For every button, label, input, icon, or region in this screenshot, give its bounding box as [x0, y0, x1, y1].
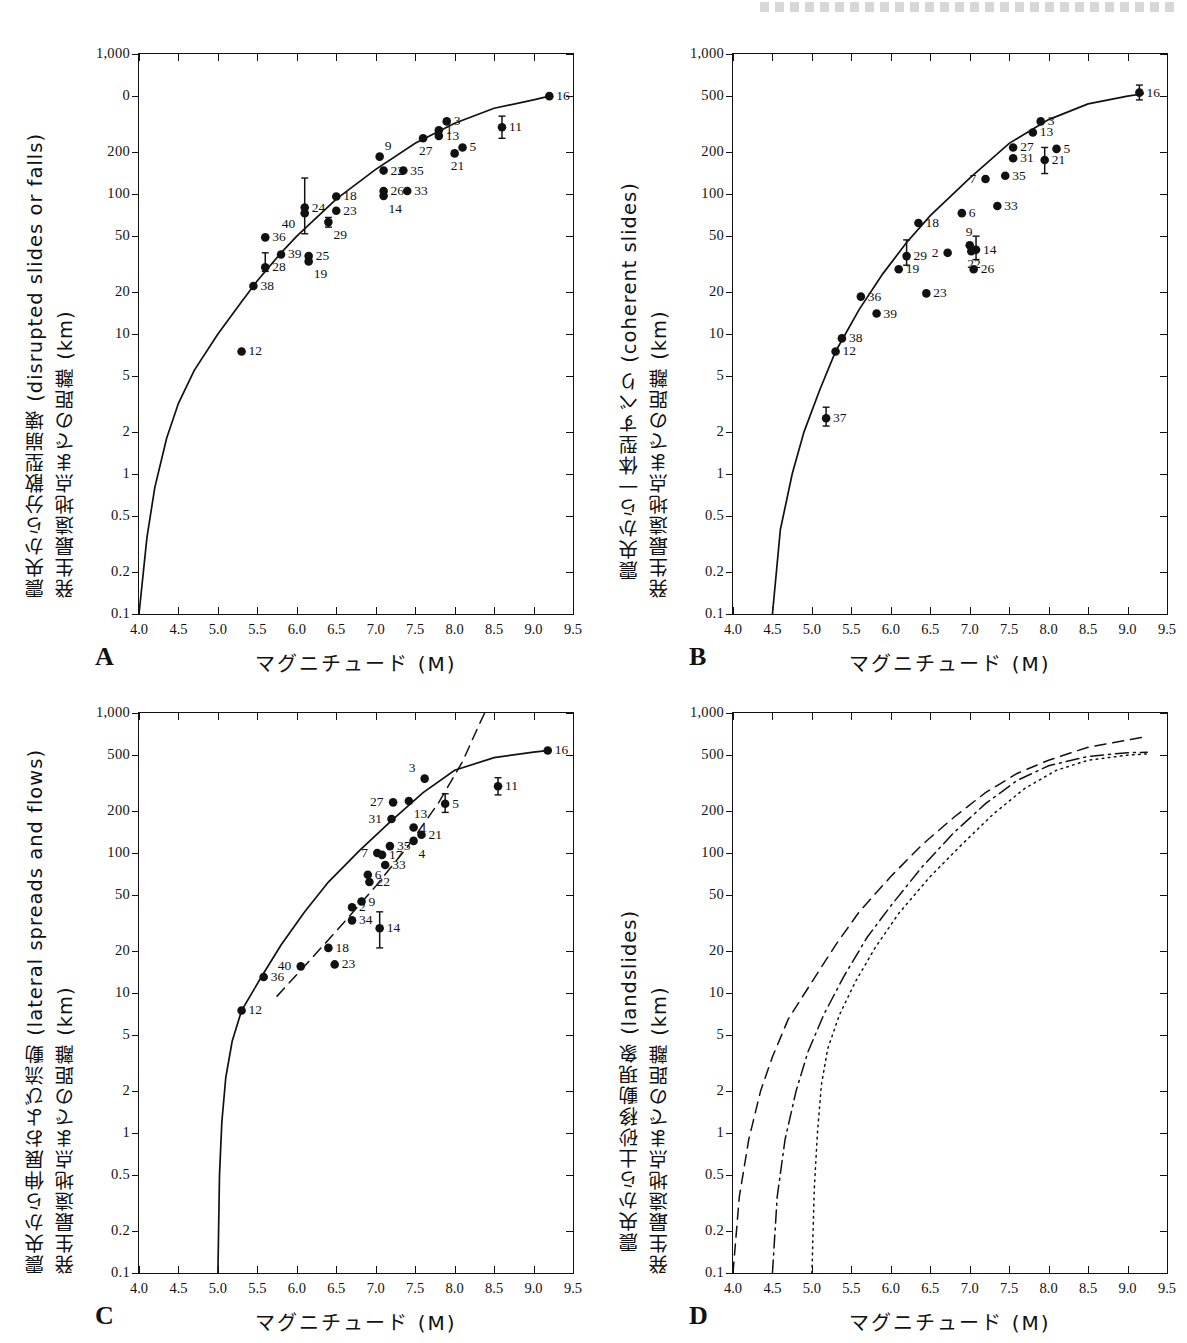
data-point[interactable]	[435, 132, 444, 141]
y-tick-label: 50	[709, 886, 724, 903]
data-point[interactable]	[1029, 128, 1038, 137]
panel-b-ytitle-line2: 発生最遠地点までの距離 (km)	[648, 310, 671, 598]
data-point[interactable]	[237, 1006, 246, 1015]
data-point-label: 22	[967, 256, 981, 272]
data-point-label: 22	[376, 874, 390, 890]
panel-c-ytitle: 震央から伸展および流動 (lateral spreads and flows)	[22, 744, 50, 1274]
data-point[interactable]	[498, 123, 507, 132]
y-tick	[132, 152, 139, 153]
y-tick	[132, 993, 139, 994]
panel-d-ytitle-line2: 発生最遠地点までの距離 (km)	[648, 986, 671, 1274]
data-point[interactable]	[277, 250, 286, 259]
data-point-label: 4	[419, 846, 426, 862]
data-point[interactable]	[375, 152, 384, 161]
data-point[interactable]	[967, 247, 976, 256]
panel-a-ytitle-line2: 発生最遠地点までの距離 (km)	[54, 310, 77, 598]
data-point-label: 26	[981, 261, 995, 277]
y-tick	[726, 1035, 733, 1036]
data-point[interactable]	[543, 746, 552, 755]
data-point[interactable]	[420, 774, 429, 783]
data-point[interactable]	[261, 263, 270, 272]
data-point[interactable]	[441, 799, 450, 808]
y-tick-right	[566, 1273, 573, 1274]
data-point[interactable]	[419, 134, 428, 143]
y-tick-label: 0.2	[111, 1222, 130, 1239]
panel-c-letter: C	[95, 1301, 114, 1331]
data-point[interactable]	[259, 973, 268, 982]
y-tick	[132, 755, 139, 756]
data-point[interactable]	[379, 166, 388, 175]
data-point-label: 19	[314, 266, 328, 282]
data-point-label: 2	[932, 245, 939, 261]
data-point[interactable]	[379, 192, 388, 201]
data-point[interactable]	[405, 797, 414, 806]
y-tick-label: 50	[709, 227, 724, 244]
data-point[interactable]	[838, 334, 847, 343]
data-point[interactable]	[1009, 154, 1018, 163]
data-point[interactable]	[330, 960, 339, 969]
data-point[interactable]	[922, 289, 931, 298]
data-point[interactable]	[324, 944, 333, 953]
y-tick	[726, 516, 733, 517]
data-point[interactable]	[1135, 88, 1144, 97]
data-point[interactable]	[378, 851, 387, 860]
data-point[interactable]	[348, 916, 357, 925]
data-point[interactable]	[1001, 171, 1010, 180]
data-point[interactable]	[1009, 143, 1018, 152]
panel-b: 震央から一体型すべり (coherent slides) 発生最遠地点までの距離…	[594, 0, 1187, 672]
data-point[interactable]	[364, 870, 373, 879]
data-point[interactable]	[389, 798, 398, 807]
y-tick	[132, 1231, 139, 1232]
data-point[interactable]	[375, 924, 384, 933]
data-point[interactable]	[494, 782, 503, 791]
data-point[interactable]	[822, 414, 831, 423]
data-point[interactable]	[993, 202, 1002, 211]
data-point[interactable]	[387, 815, 396, 824]
data-point[interactable]	[943, 249, 952, 258]
data-point-label: 35	[410, 163, 424, 179]
panel-b-ytitle-b: 発生最遠地点までの距離 (km)	[646, 178, 674, 598]
data-point[interactable]	[296, 962, 305, 971]
x-tick-top	[573, 54, 574, 61]
y-tick-label: 2	[716, 423, 724, 440]
data-point[interactable]	[249, 282, 258, 291]
data-point-label: 5	[452, 796, 459, 812]
data-point[interactable]	[831, 347, 840, 356]
y-tick	[132, 334, 139, 335]
data-point[interactable]	[872, 309, 881, 318]
data-point[interactable]	[1040, 156, 1049, 165]
data-point[interactable]	[545, 92, 554, 101]
data-point[interactable]	[332, 192, 341, 201]
data-point[interactable]	[450, 149, 459, 158]
plot-overlay	[139, 713, 573, 1273]
panel-d: 震央から土砂移動現象 (landslides) 発生最遠地点までの距離 (km)…	[594, 672, 1187, 1343]
data-point[interactable]	[458, 143, 467, 152]
data-point[interactable]	[958, 209, 967, 218]
y-tick-label: 5	[122, 1026, 130, 1043]
data-point[interactable]	[981, 175, 990, 184]
data-point-label: 36	[272, 229, 286, 245]
data-point-label: 12	[843, 343, 857, 359]
data-point-label: 35	[1012, 168, 1026, 184]
plot-overlay	[139, 54, 573, 614]
data-point[interactable]	[914, 219, 923, 228]
data-point[interactable]	[237, 347, 246, 356]
data-point[interactable]	[261, 233, 270, 242]
y-tick-label: 1,000	[96, 704, 130, 721]
data-point[interactable]	[348, 903, 357, 912]
data-point[interactable]	[902, 252, 911, 261]
x-tick-label: 9.5	[1158, 1280, 1176, 1297]
y-tick	[726, 96, 733, 97]
data-point[interactable]	[857, 292, 866, 301]
data-point[interactable]	[324, 218, 333, 227]
data-point[interactable]	[409, 823, 418, 832]
plot-overlay	[733, 713, 1167, 1273]
data-point-label: 29	[333, 227, 347, 243]
data-point[interactable]	[894, 265, 903, 274]
data-point[interactable]	[300, 209, 309, 218]
data-point[interactable]	[365, 878, 374, 887]
x-tick-label: 5.5	[842, 621, 860, 638]
data-point[interactable]	[332, 206, 341, 215]
y-tick-label: 20	[709, 283, 724, 300]
data-point[interactable]	[304, 257, 313, 266]
